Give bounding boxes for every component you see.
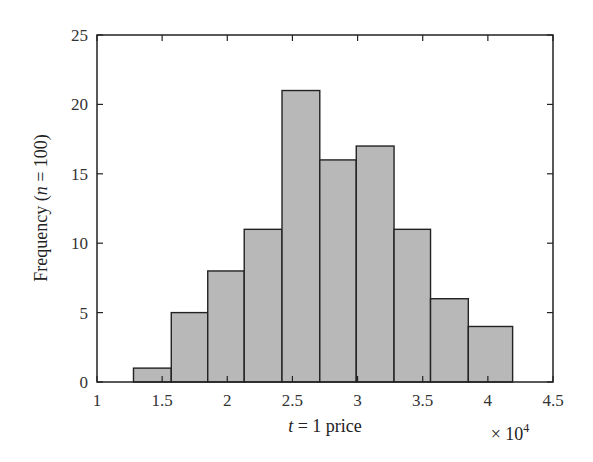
histogram-bar <box>356 146 394 382</box>
histogram-bar <box>208 271 244 382</box>
x-tick-label: 2 <box>223 391 232 410</box>
x-tick-label: 1 <box>93 391 102 410</box>
x-axis-label: t = 1 price <box>288 416 362 436</box>
histogram-bar <box>431 299 469 382</box>
histogram-bar <box>282 91 320 382</box>
histogram-bar <box>320 160 356 382</box>
y-tick-label: 0 <box>80 373 89 392</box>
histogram-bar <box>133 368 171 382</box>
y-tick-label: 5 <box>80 304 89 323</box>
x-tick-label: 3.5 <box>412 391 433 410</box>
y-axis-label: Frequency (n = 100) <box>31 134 52 282</box>
x-axis-multiplier: × 104 <box>491 421 530 444</box>
x-tick-label: 1.5 <box>152 391 173 410</box>
y-tick-label: 20 <box>71 95 88 114</box>
histogram-chart: 11.522.533.544.5 0510152025 t = 1 price … <box>0 0 593 462</box>
y-tick-label: 25 <box>71 26 88 45</box>
y-tick-label: 10 <box>71 234 88 253</box>
x-tick-label: 4.5 <box>542 391 563 410</box>
histogram-bar <box>244 229 282 382</box>
x-tick-label: 2.5 <box>282 391 303 410</box>
x-tick-label: 3 <box>353 391 362 410</box>
histogram-bar <box>171 313 207 382</box>
histogram-bars <box>133 91 512 382</box>
x-tick-label: 4 <box>484 391 493 410</box>
histogram-bar <box>468 326 512 382</box>
histogram-bar <box>394 229 430 382</box>
y-tick-label: 15 <box>71 165 88 184</box>
